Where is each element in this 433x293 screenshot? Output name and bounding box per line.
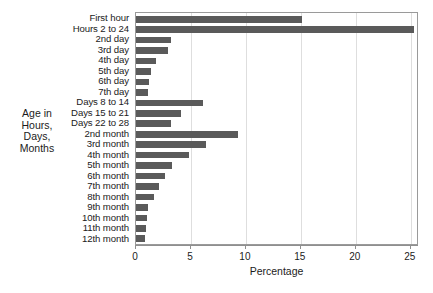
bar [136, 204, 148, 211]
bar [136, 79, 149, 86]
bar-row [136, 150, 417, 160]
x-axis-tick [410, 245, 411, 249]
bar [136, 89, 148, 96]
y-axis-title: Age in Hours, Days, Months [6, 108, 68, 154]
bar [136, 58, 156, 65]
category-label: 11th month [60, 223, 132, 234]
category-label: 2nd day [60, 34, 132, 45]
bar-row [136, 24, 417, 34]
x-axis-tick [135, 245, 136, 249]
x-axis-tick-label: 5 [187, 251, 193, 262]
bar [136, 162, 172, 169]
bar [136, 131, 238, 138]
bar [136, 183, 159, 190]
x-axis-title: Percentage [135, 265, 418, 277]
x-axis-tick [245, 245, 246, 249]
category-label: 7th month [60, 181, 132, 192]
bar-row [136, 202, 417, 212]
bar [136, 215, 147, 222]
x-axis-tick-label: 15 [294, 251, 305, 262]
bar-row [136, 56, 417, 66]
bar [136, 120, 171, 127]
bar [136, 173, 165, 180]
bar-row [136, 213, 417, 223]
category-label: First hour [60, 13, 132, 24]
bar-row [136, 160, 417, 170]
bar-row [136, 35, 417, 45]
category-label: 12th month [60, 234, 132, 245]
bar-row [136, 14, 417, 24]
bar-row [136, 98, 417, 108]
bar [136, 141, 206, 148]
category-label: Days 22 to 28 [60, 118, 132, 129]
bar-row [136, 192, 417, 202]
bar-row [136, 77, 417, 87]
bar-row [136, 87, 417, 97]
bar [136, 47, 168, 54]
x-axis-tick [300, 245, 301, 249]
bar [136, 225, 146, 232]
bar-row [136, 108, 417, 118]
category-label-column: First hourHours 2 to 242nd day3rd day4th… [60, 13, 132, 244]
category-label: 4th day [60, 55, 132, 66]
bar-row [136, 181, 417, 191]
bar [136, 68, 151, 75]
bar-row [136, 45, 417, 55]
x-axis-tick-label: 20 [349, 251, 360, 262]
x-axis-tick-label: 0 [132, 251, 138, 262]
bar [136, 26, 414, 33]
bar-row [136, 223, 417, 233]
x-axis-tick-label: 25 [404, 251, 415, 262]
x-axis-tick-label: 10 [239, 251, 250, 262]
category-label: 6th day [60, 76, 132, 87]
category-label: Days 8 to 14 [60, 97, 132, 108]
bar-row [136, 234, 417, 244]
bars-layer [136, 14, 417, 244]
plot-area [135, 12, 418, 245]
category-label: 3rd month [60, 139, 132, 150]
bar-row [136, 171, 417, 181]
bar-row [136, 129, 417, 139]
bar [136, 152, 189, 159]
bar-row [136, 139, 417, 149]
x-axis-tick [355, 245, 356, 249]
category-label: 5th month [60, 160, 132, 171]
bar-chart: Age in Hours, Days, Months First hourHou… [0, 0, 433, 293]
bar-row [136, 119, 417, 129]
bar [136, 16, 302, 23]
bar [136, 110, 181, 117]
category-label: 9th month [60, 202, 132, 213]
bar-row [136, 66, 417, 76]
x-axis-line [135, 245, 418, 246]
bar [136, 37, 171, 44]
bar [136, 235, 145, 242]
bar [136, 194, 154, 201]
x-axis-tick [190, 245, 191, 249]
bar [136, 100, 203, 107]
